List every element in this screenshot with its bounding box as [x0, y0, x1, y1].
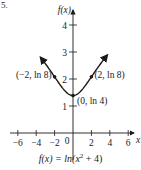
x-tick-label: −6 [13, 138, 23, 148]
y-tick-label: 1 [62, 102, 67, 112]
point-label: (0, ln 4) [77, 96, 107, 107]
y-tick-label: 2 [62, 75, 67, 85]
x-tick-label: 2 [89, 138, 94, 148]
point-annotations: (−2, ln 8)(2, ln 8)(0, ln 4) [16, 70, 125, 107]
axes: −6−4−20246x1234f(x) [10, 5, 141, 160]
y-axis-label: f(x) [58, 5, 71, 16]
x-tick-label: −2 [50, 138, 60, 148]
point-label: (2, ln 8) [94, 70, 124, 81]
y-tick-label: 3 [62, 48, 67, 58]
x-axis-label: x [135, 135, 141, 145]
x-tick-label: 0 [65, 136, 70, 146]
point-marker [90, 75, 94, 79]
function-graph: −6−4−20246x1234f(x) (−2, ln 8)(2, ln 8)(… [0, 0, 141, 170]
point-marker [71, 94, 75, 98]
point-marker [53, 75, 57, 79]
x-tick-label: 6 [126, 138, 131, 148]
function-caption: f(x) = ln(x2 + 4) [0, 152, 141, 164]
point-label: (−2, ln 8) [16, 70, 52, 81]
y-tick-label: 4 [62, 21, 67, 31]
x-tick-label: 4 [107, 138, 112, 148]
x-tick-label: −4 [31, 138, 41, 148]
